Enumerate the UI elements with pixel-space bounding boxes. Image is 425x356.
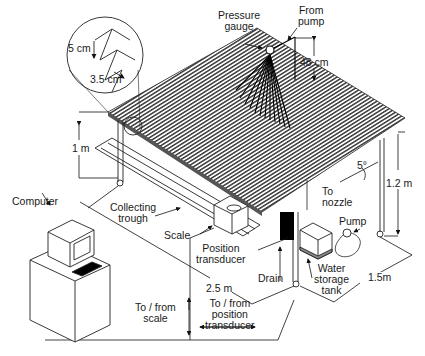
label-corrugation-height: 5 cm [68,43,91,54]
label-to-nozzle: To nozzle [322,186,352,208]
label-scale: Scale [164,230,190,241]
label-from-pump: From pump [298,5,324,27]
corrugated-roof [108,28,405,216]
water-storage-tank [300,223,332,259]
pump [343,229,351,237]
label-corrugation-pitch: 3.5 cm [90,74,122,85]
label-depth-dim: 1.5m [368,272,391,283]
label-nozzle-height: 48 cm [300,57,329,68]
front-left-post [117,120,123,186]
label-position-transducer: Position transducer [196,243,246,265]
label-front-height: 1 m [72,143,90,154]
label-pump: Pump [339,216,366,227]
drain-block [280,212,294,240]
label-computer: Computer [12,196,58,207]
label-collecting-trough: Collecting trough [110,202,156,224]
label-pressure-gauge: Pressure gauge [218,10,260,32]
label-rear-height: 1.2 m [386,178,412,189]
computer-icon [30,220,110,342]
rear-right-post [377,138,384,237]
label-slope: 5° [357,160,367,171]
label-to-from-position-transducer: To / from position transducer [205,298,255,331]
label-drain: Drain [258,273,283,284]
label-water-storage-tank: Water storage tank [314,263,349,296]
label-width-dim: 2.5 m [206,283,232,294]
label-to-from-scale: To / from scale [135,302,176,324]
